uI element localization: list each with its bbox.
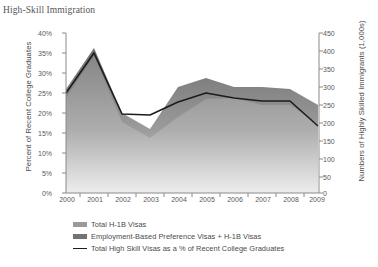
legend-line-icon <box>73 248 87 249</box>
legend-swatch-icon <box>73 222 87 227</box>
legend-label: Total High Skill Visas as a % of Recent … <box>91 244 284 253</box>
x-axis-ticks <box>80 193 304 197</box>
left-axis-ticks <box>62 33 66 193</box>
legend-label: Total H-1B Visas <box>91 220 146 229</box>
right-axis-ticks <box>319 33 323 193</box>
legend-item-employment-based-plus-h1b: Employment-Based Preference Visas + H-1B… <box>73 230 284 242</box>
legend-item-total-h1b: Total H-1B Visas <box>73 218 284 230</box>
legend-swatch-icon <box>73 234 87 239</box>
legend-item-total-high-skill-pct: Total High Skill Visas as a % of Recent … <box>73 242 284 254</box>
chart-figure: Percent of Recent College Graduates Numb… <box>0 0 378 267</box>
chart-legend: Total H-1B Visas Employment-Based Prefer… <box>73 218 284 254</box>
legend-label: Employment-Based Preference Visas + H-1B… <box>91 232 261 241</box>
